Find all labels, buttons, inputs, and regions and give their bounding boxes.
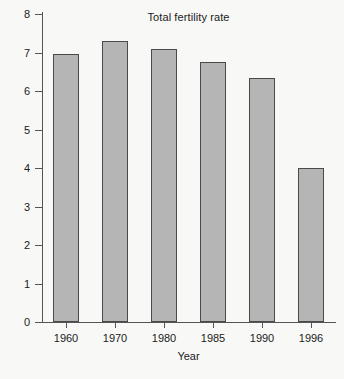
y-axis-tick-label: 0 xyxy=(0,316,30,328)
y-axis-tick-label: 6 xyxy=(0,85,30,97)
bar xyxy=(298,168,324,322)
y-axis-tick xyxy=(35,91,42,92)
x-axis-tick xyxy=(311,322,312,328)
y-axis-tick-label: 4 xyxy=(0,162,30,174)
y-axis-tick-label: 1 xyxy=(0,278,30,290)
x-axis-tick xyxy=(213,322,214,328)
y-axis-tick-label: 8 xyxy=(0,8,30,20)
bar xyxy=(249,78,275,322)
y-axis-tick xyxy=(35,53,42,54)
bar-chart: Total fertility rate 012345678 196019701… xyxy=(0,0,344,379)
y-axis-tick xyxy=(35,168,42,169)
x-axis-tick xyxy=(262,322,263,328)
y-axis-tick xyxy=(35,207,42,208)
x-axis-tick xyxy=(115,322,116,328)
x-axis-tick-label: 1970 xyxy=(103,332,127,344)
bar xyxy=(53,54,79,322)
x-axis-tick-label: 1960 xyxy=(54,332,78,344)
y-axis-tick-label: 3 xyxy=(0,201,30,213)
y-axis-tick-label: 5 xyxy=(0,124,30,136)
bar xyxy=(102,41,128,322)
y-axis-tick xyxy=(35,130,42,131)
x-axis-line xyxy=(42,322,336,323)
y-axis-tick xyxy=(35,322,42,323)
x-axis-tick-label: 1980 xyxy=(152,332,176,344)
x-axis-tick xyxy=(164,322,165,328)
y-axis-tick-label: 2 xyxy=(0,239,30,251)
y-axis-tick xyxy=(35,14,42,15)
x-axis-tick-label: 1996 xyxy=(299,332,323,344)
y-axis-tick-label: 7 xyxy=(0,47,30,59)
x-axis-tick xyxy=(66,322,67,328)
x-axis-tick-label: 1985 xyxy=(201,332,225,344)
plot-area xyxy=(42,14,335,322)
y-axis-tick xyxy=(35,284,42,285)
x-axis-tick-label: 1990 xyxy=(250,332,274,344)
bar xyxy=(200,62,226,322)
y-axis-tick xyxy=(35,245,42,246)
bar xyxy=(151,49,177,322)
x-axis-title: Year xyxy=(42,350,335,362)
